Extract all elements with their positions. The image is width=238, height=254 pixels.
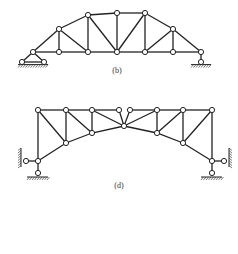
truss-member bbox=[157, 110, 183, 133]
truss-member bbox=[38, 110, 66, 143]
truss-diagrams bbox=[0, 0, 238, 254]
joint-node bbox=[121, 123, 126, 128]
support-pin bbox=[23, 158, 28, 163]
joint-node bbox=[85, 49, 90, 54]
joint-node bbox=[154, 107, 159, 112]
joint-node bbox=[85, 12, 90, 17]
figure-label-b: (b) bbox=[112, 66, 121, 75]
support-pin bbox=[209, 170, 214, 175]
truss-member bbox=[117, 13, 145, 52]
truss-member bbox=[33, 29, 59, 52]
support-pin bbox=[19, 59, 24, 64]
truss-member bbox=[145, 13, 173, 29]
support-pin bbox=[35, 170, 40, 175]
support-pin bbox=[221, 158, 226, 163]
joint-node bbox=[170, 49, 175, 54]
joint-node bbox=[127, 107, 132, 112]
joint-node bbox=[56, 26, 61, 31]
joint-node bbox=[142, 49, 147, 54]
joint-node bbox=[209, 158, 214, 163]
joint-node bbox=[35, 158, 40, 163]
joint-node bbox=[180, 140, 185, 145]
truss-member bbox=[183, 110, 212, 143]
joint-node bbox=[170, 26, 175, 31]
truss-member bbox=[66, 110, 92, 133]
truss-member bbox=[59, 29, 88, 52]
joint-node bbox=[116, 107, 121, 112]
joint-node bbox=[30, 49, 35, 54]
joint-node bbox=[63, 140, 68, 145]
joint-node bbox=[180, 107, 185, 112]
support-pin bbox=[41, 59, 46, 64]
joint-node bbox=[142, 10, 147, 15]
truss-member bbox=[88, 13, 117, 15]
joint-node bbox=[114, 49, 119, 54]
joint-node bbox=[89, 130, 94, 135]
truss-member bbox=[173, 29, 201, 52]
support-pin bbox=[198, 59, 203, 64]
joint-node bbox=[35, 107, 40, 112]
figure-label-d: (d) bbox=[114, 181, 123, 190]
truss-member bbox=[145, 29, 173, 52]
joint-node bbox=[56, 49, 61, 54]
joint-node bbox=[154, 130, 159, 135]
truss-figure-d bbox=[18, 107, 232, 180]
joint-node bbox=[63, 107, 68, 112]
joint-node bbox=[89, 107, 94, 112]
joint-node bbox=[198, 49, 203, 54]
truss-member bbox=[59, 15, 88, 29]
truss-member bbox=[88, 15, 117, 52]
truss-figure-b bbox=[18, 10, 211, 67]
joint-node bbox=[209, 107, 214, 112]
joint-node bbox=[114, 10, 119, 15]
